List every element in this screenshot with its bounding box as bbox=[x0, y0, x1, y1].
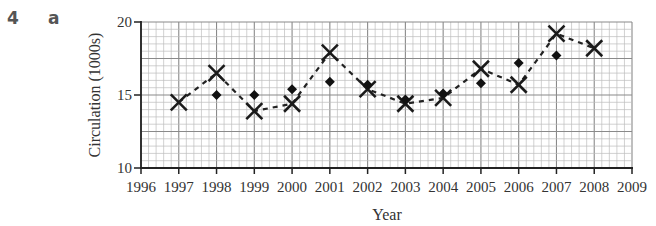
x-tick-label: 2001 bbox=[315, 179, 345, 195]
x-tick-label: 1997 bbox=[164, 179, 195, 195]
x-tick-label: 2006 bbox=[504, 179, 535, 195]
diamond-marker bbox=[249, 90, 259, 100]
x-tick-label: 2004 bbox=[428, 179, 459, 195]
circulation-chart: 1996199719981999200020012002200320042005… bbox=[0, 0, 656, 226]
diamond-marker bbox=[476, 78, 486, 88]
x-tick-label: 1999 bbox=[239, 179, 269, 195]
x-tick-label: 2007 bbox=[541, 179, 572, 195]
diamond-marker bbox=[438, 89, 448, 99]
x-tick-label: 2008 bbox=[579, 179, 609, 195]
x-tick-label: 1996 bbox=[126, 179, 157, 195]
x-tick-label: 2009 bbox=[617, 179, 647, 195]
data-series bbox=[171, 26, 602, 119]
dashed-trend-line bbox=[179, 34, 594, 111]
diamond-marker bbox=[325, 77, 335, 87]
diamond-marker bbox=[287, 84, 297, 94]
diamond-marker bbox=[363, 80, 373, 90]
axes: 1996199719981999200020012002200320042005… bbox=[117, 14, 647, 195]
x-tick-label: 2000 bbox=[277, 179, 307, 195]
y-tick-label: 10 bbox=[117, 160, 132, 176]
diamond-marker bbox=[212, 90, 222, 100]
diamond-marker bbox=[551, 51, 561, 61]
diamond-marker bbox=[514, 58, 524, 68]
x-tick-label: 2002 bbox=[353, 179, 383, 195]
x-axis-title: Year bbox=[372, 206, 402, 223]
x-tick-label: 2005 bbox=[466, 179, 496, 195]
y-tick-label: 15 bbox=[117, 87, 132, 103]
x-tick-label: 1998 bbox=[202, 179, 232, 195]
y-tick-label: 20 bbox=[117, 14, 132, 30]
y-axis-title: Circulation (1000s) bbox=[86, 33, 104, 158]
x-tick-label: 2003 bbox=[390, 179, 420, 195]
